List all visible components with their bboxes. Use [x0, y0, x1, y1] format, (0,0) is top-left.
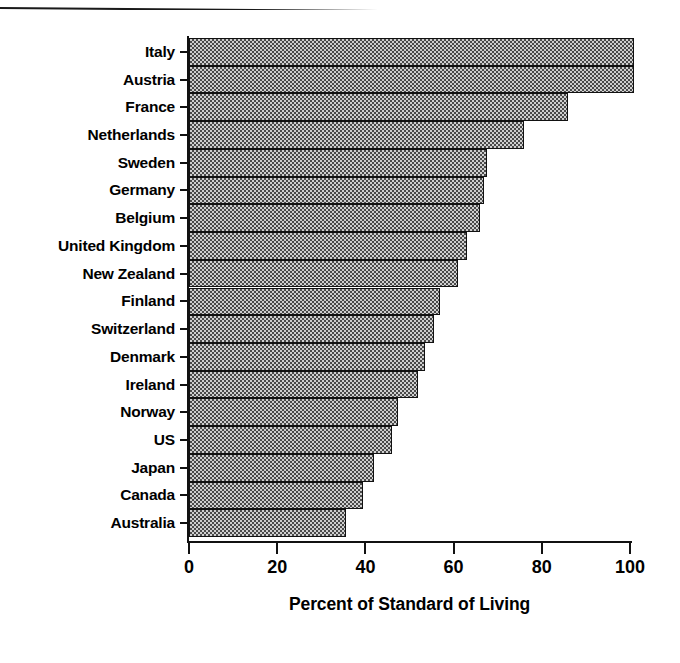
x-axis-tick-label: 80	[532, 558, 552, 576]
bar-chart-figure: ItalyAustriaFranceNetherlandsSwedenGerma…	[0, 0, 680, 663]
x-axis-tick	[629, 543, 631, 554]
x-axis-tick	[276, 543, 278, 554]
x-axis-title: Percent of Standard of Living	[189, 594, 630, 615]
x-axis-tick-label: 60	[444, 558, 464, 576]
x-axis-tick	[364, 543, 366, 554]
x-axis-tick-label: 40	[355, 558, 375, 576]
x-axis-tick-label: 20	[267, 558, 287, 576]
x-axis-ticks-and-labels: 020406080100	[0, 0, 680, 663]
x-axis-tick	[453, 543, 455, 554]
x-axis-tick	[188, 543, 190, 554]
x-axis-tick	[541, 543, 543, 554]
x-axis-tick-label: 100	[615, 558, 645, 576]
x-axis-tick-label: 0	[184, 558, 194, 576]
